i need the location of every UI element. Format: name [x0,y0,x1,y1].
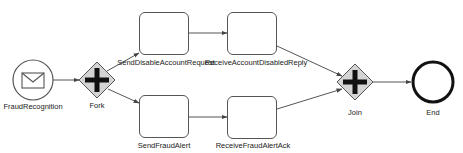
task-send-disable-account-request[interactable] [139,12,189,55]
task-send-fraud-alert[interactable] [139,95,189,138]
task3-label: SendFraudAlert [138,141,191,150]
end-event-label: End [426,108,439,117]
fork-label: Fork [90,101,105,110]
join-label: Join [348,108,362,117]
join-gateway[interactable] [337,64,373,100]
end-event[interactable] [413,62,453,102]
task2-label: ReceiveAccountDisabledReply [205,58,308,67]
task-receive-fraud-alert-ack[interactable] [227,96,277,139]
task-receive-account-disabled-reply[interactable] [227,12,277,55]
task1-label: SendDisableAccountRequest [117,58,215,67]
start-event[interactable] [13,60,53,100]
envelope-icon [22,73,44,88]
fork-gateway[interactable] [79,62,115,98]
task4-label: ReceiveFraudAlertAck [216,141,291,150]
bpmn-canvas: FraudRecognition Fork SendDisableAccount… [0,0,463,153]
flow-task4-to-join[interactable] [277,89,342,109]
start-event-label: FraudRecognition [3,102,62,111]
flow-fork-to-task3[interactable] [108,89,139,103]
